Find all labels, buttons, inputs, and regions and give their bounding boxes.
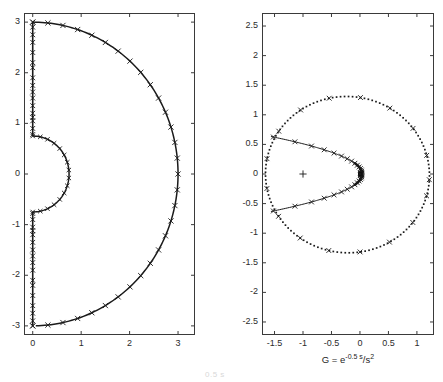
y-tick-label: 2: [0, 68, 20, 77]
xlabel-denominator-power: 2: [370, 353, 374, 360]
x-tick-label: 2: [110, 339, 150, 348]
xlabel-lead: G = e: [322, 354, 346, 365]
y-tick-label: -2: [0, 270, 20, 279]
y-tick-label: -2: [216, 287, 258, 296]
y-tick-label: 1.5: [216, 80, 258, 89]
x-tick-label: 1: [61, 339, 101, 348]
xlabel-exponent: -0.5 s: [345, 353, 363, 360]
x-tick-label: 0: [13, 339, 53, 348]
right-plot-canvas: [262, 13, 434, 335]
y-tick-label: -0.5: [216, 199, 258, 208]
y-tick-label: -3: [0, 321, 20, 330]
y-tick-label: -1: [216, 228, 258, 237]
contour-paths: [30, 20, 181, 329]
y-tick-label: 0: [216, 169, 258, 178]
nyquist-paths: [265, 95, 432, 254]
x-tick-label: 1: [397, 339, 437, 348]
y-tick-label: 3: [0, 17, 20, 26]
y-tick-label: -1: [0, 220, 20, 229]
y-tick-label: 1: [216, 110, 258, 119]
clipped-footer-caption: 0.5 s: [205, 370, 225, 379]
y-tick-label: 2.5: [216, 21, 258, 30]
y-tick-label: -2.5: [216, 317, 258, 326]
y-tick-label: 0.5: [216, 139, 258, 148]
x-tick-label: 3: [158, 339, 198, 348]
y-tick-label: 0: [0, 169, 20, 178]
y-tick-label: -1.5: [216, 258, 258, 267]
left-plot-canvas: [24, 13, 195, 335]
y-tick-label: 2: [216, 51, 258, 60]
y-tick-label: 1: [0, 118, 20, 127]
matlab-figure: 0123-3-2-10123 -1.5-1-0.500.51-2.5-2-1.5…: [0, 0, 443, 382]
right-x-axis-label: G = e-0.5 s/s2: [262, 353, 434, 365]
